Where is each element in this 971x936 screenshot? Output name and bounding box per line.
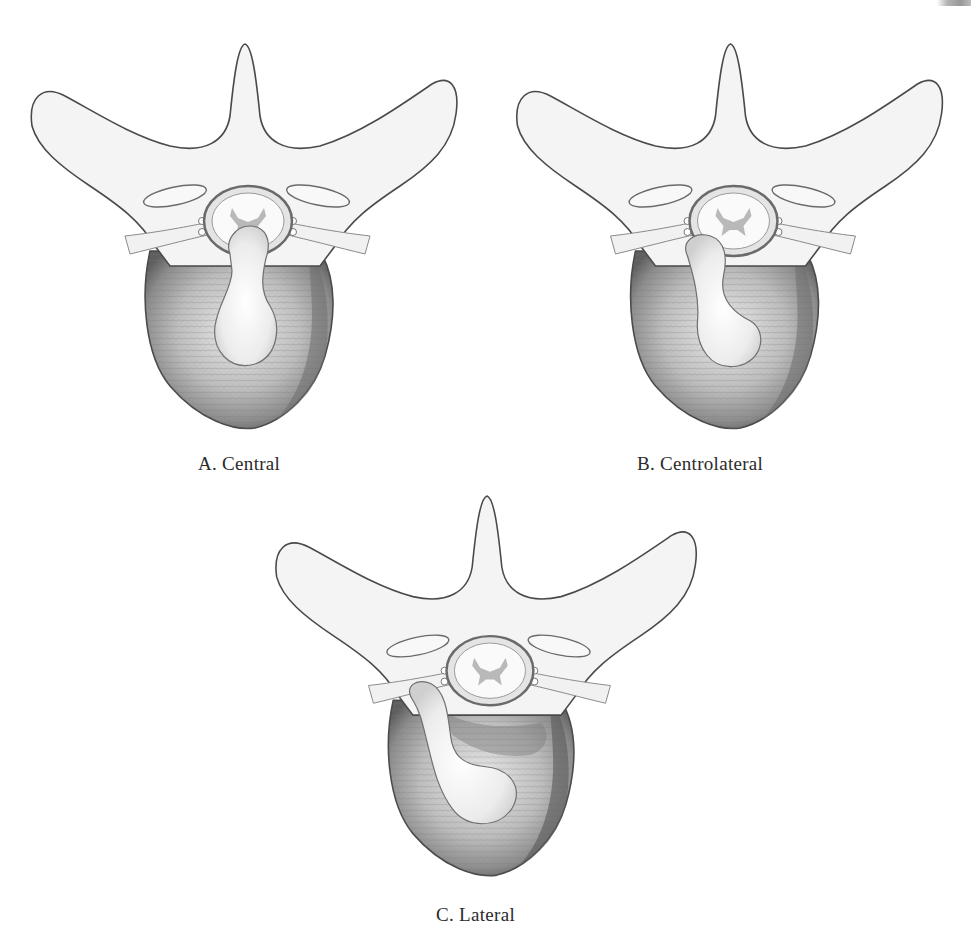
- panel-a-central-herniation: [20, 36, 470, 436]
- caption-a: A. Central: [198, 453, 280, 475]
- caption-b: B. Centrolateral: [637, 453, 763, 475]
- vertebra-illustration-centrolateral: [490, 36, 971, 436]
- vertebra-illustration-central: [20, 36, 470, 436]
- page-number-fragment: [937, 0, 971, 6]
- vertebra-illustration-lateral: [262, 488, 712, 883]
- panel-b-centrolateral-herniation: [490, 36, 971, 436]
- panel-c-lateral-herniation: [262, 488, 712, 883]
- caption-c: C. Lateral: [436, 904, 515, 926]
